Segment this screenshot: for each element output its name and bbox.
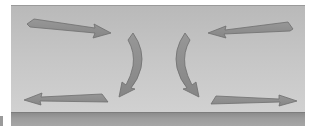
- curved-arrow-icon: [119, 33, 142, 97]
- arrow-left-icon: [208, 22, 293, 38]
- arrow-right-icon: [211, 95, 297, 106]
- curved-arrow-icon: [176, 33, 199, 97]
- arrow-layer: [0, 0, 315, 140]
- arrow-right-icon: [27, 19, 111, 38]
- arrow-left-icon: [24, 93, 108, 105]
